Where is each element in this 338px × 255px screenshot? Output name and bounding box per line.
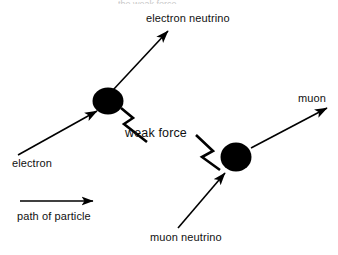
electron-neutrino-arrow (113, 31, 168, 90)
label-electron-neutrino: electron neutrino (146, 12, 230, 24)
diagram-canvas: the weak force electron neutrino muon (0, 0, 338, 255)
weak-force-zigzag-right (196, 135, 220, 170)
muon-neutrino-arrow (178, 173, 225, 228)
electron-arrow (18, 111, 97, 155)
label-electron: electron (12, 157, 52, 169)
label-muon-neutrino: muon neutrino (150, 231, 222, 243)
label-muon: muon (298, 92, 326, 104)
legend-caption-path-of-particle: path of particle (17, 210, 91, 222)
electron-vertex-blob (93, 88, 124, 115)
muon-arrow (251, 108, 327, 148)
label-weak-force: weak force (125, 127, 187, 140)
muon-vertex-blob (221, 143, 252, 172)
